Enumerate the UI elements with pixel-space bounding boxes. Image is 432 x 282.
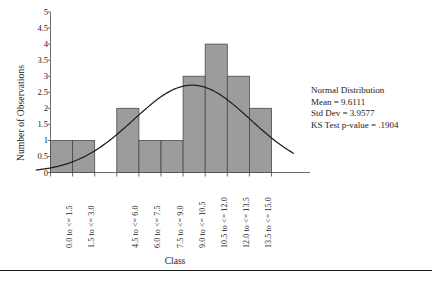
x-axis-ticks bbox=[51, 173, 272, 177]
x-tick-label: 6.0 to <= 7.5 bbox=[153, 205, 162, 248]
histogram-bar bbox=[205, 44, 227, 172]
x-tick-label: 1.5 to <= 3.0 bbox=[87, 205, 96, 248]
x-tick-label: 7.5 to <= 9.0 bbox=[176, 205, 185, 248]
histogram-bar bbox=[227, 76, 249, 172]
histogram-bar bbox=[139, 140, 161, 172]
histogram-bar bbox=[161, 140, 183, 172]
statistics-annotation: Normal Distribution Mean = 9.6111 Std De… bbox=[311, 85, 399, 131]
x-tick-label: 13.5 to <= 15.0 bbox=[264, 197, 273, 248]
x-tick-label: 4.5 to <= 6.0 bbox=[131, 205, 140, 248]
x-tick-label: 10.5 to <= 12.0 bbox=[220, 197, 229, 248]
histogram-bar bbox=[183, 76, 205, 172]
bottom-divider bbox=[0, 270, 432, 271]
histogram-figure: Number of Observations 00.511.522.533.54… bbox=[0, 0, 432, 282]
x-tick-label: 12.0 to <= 13.5 bbox=[242, 197, 251, 248]
annotation-line-pvalue: KS Test p-value = .1904 bbox=[311, 120, 399, 132]
x-tick-label: 0.0 to <= 1.5 bbox=[65, 205, 74, 248]
histogram-bar bbox=[249, 108, 271, 172]
x-tick-label: 9.0 to <= 10.5 bbox=[198, 201, 207, 248]
annotation-line-stddev: Std Dev = 3.9577 bbox=[311, 108, 399, 120]
x-axis-title: Class bbox=[50, 256, 300, 266]
annotation-line-distribution: Normal Distribution bbox=[311, 85, 399, 97]
annotation-line-mean: Mean = 9.6111 bbox=[311, 97, 399, 109]
